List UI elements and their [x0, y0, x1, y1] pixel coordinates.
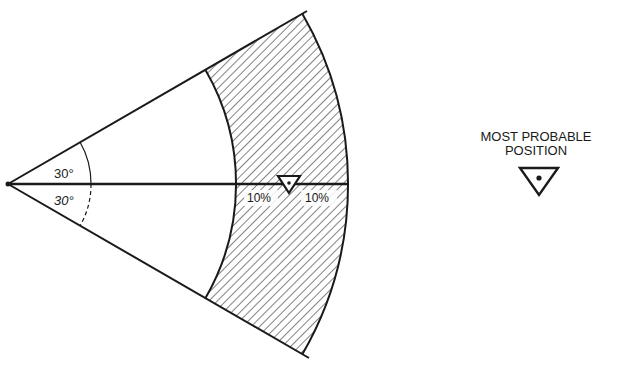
legend-title-line2: POSITION — [505, 143, 567, 158]
lower-angle-arc — [80, 184, 91, 226]
upper-angle-label: 30° — [54, 166, 74, 181]
legend-position-icon — [520, 168, 558, 195]
legend-title-line1: MOST PROBABLE — [480, 129, 591, 144]
percent-label-inner: 10% — [247, 191, 271, 205]
upper-angle-arc — [80, 142, 91, 184]
legend: MOST PROBABLE POSITION — [480, 129, 591, 195]
search-sector-diagram: 30° 30° 10% 10% MOST PROBABLE POSITION — [0, 0, 619, 370]
origin-point — [6, 182, 11, 187]
lower-angle-label: 30° — [54, 193, 74, 208]
percent-label-outer: 10% — [305, 191, 329, 205]
